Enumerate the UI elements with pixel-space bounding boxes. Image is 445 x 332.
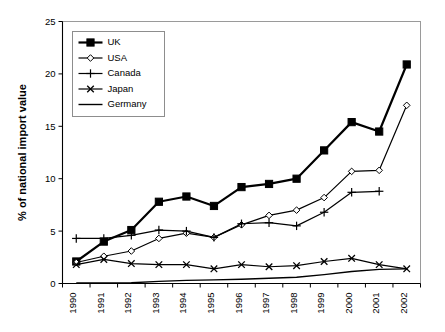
legend-item-label: USA [108, 52, 128, 63]
x-tick-label: 2000 [343, 293, 354, 314]
data-point-marker [183, 193, 190, 200]
x-tick-label: 1990 [67, 293, 78, 314]
y-tick-label: 20 [45, 68, 56, 79]
x-tick-label: 1999 [315, 293, 326, 314]
x-tick-label: 1998 [288, 293, 299, 314]
y-tick-label: 25 [45, 16, 56, 27]
y-tick-label: 0 [50, 278, 55, 289]
data-point-marker [238, 183, 245, 190]
chart-figure: 0510152025 19901991199219931994199519961… [0, 0, 445, 332]
y-tick-label: 15 [45, 121, 56, 132]
chart-legend: UKUSACanadaJapanGermany [73, 32, 165, 117]
line-chart: 0510152025 19901991199219931994199519961… [0, 0, 445, 332]
legend-item-label: Japan [108, 83, 134, 94]
x-tick-label: 2001 [370, 293, 381, 314]
legend-item-label: UK [108, 36, 122, 47]
x-tick-label: 1996 [233, 293, 244, 314]
data-point-marker [210, 202, 217, 209]
data-point-marker [376, 128, 383, 135]
data-point-marker [293, 175, 300, 182]
y-tick-label: 5 [50, 226, 55, 237]
x-tick-label: 1995 [205, 293, 216, 314]
x-tick-label: 1997 [260, 293, 271, 314]
legend-item-label: Germany [108, 98, 147, 109]
chart-background [0, 0, 445, 332]
data-point-marker [155, 198, 162, 205]
data-point-marker [265, 180, 272, 187]
x-tick-label: 1991 [95, 293, 106, 314]
x-tick-label: 1993 [150, 293, 161, 314]
x-tick-label: 1994 [177, 293, 188, 314]
data-point-marker [403, 61, 410, 68]
data-point-marker [321, 147, 328, 154]
y-tick-label: 10 [45, 173, 56, 184]
legend-item-label: Canada [108, 67, 142, 78]
data-point-marker [348, 119, 355, 126]
y-axis-title: % of national import value [16, 84, 28, 221]
x-tick-label: 2002 [398, 293, 409, 314]
data-point-marker [87, 39, 94, 46]
x-tick-label: 1992 [122, 293, 133, 314]
